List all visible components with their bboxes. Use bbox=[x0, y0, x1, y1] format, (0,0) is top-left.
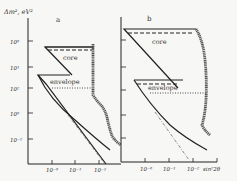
y-tick-label: 10⁶ bbox=[10, 39, 20, 45]
y-tick-label: 10² bbox=[10, 86, 19, 92]
x-tick-label: 10⁻⁴ bbox=[163, 166, 175, 172]
x-tick-label: 10⁻⁶ bbox=[46, 167, 59, 173]
envelope-label: envelope bbox=[50, 78, 80, 86]
x-tick-label: 10⁻² bbox=[94, 167, 106, 173]
panel-b-x-ticks bbox=[145, 158, 217, 162]
core-label: core bbox=[63, 54, 78, 62]
panel-b-label: b bbox=[147, 15, 152, 23]
x-axis-label: sin²2θ bbox=[203, 166, 221, 172]
y-tick-label: 10⁴ bbox=[10, 65, 19, 71]
envelope-label: envelope bbox=[148, 84, 178, 92]
x-tick-label: 10⁻⁶ bbox=[140, 166, 153, 172]
panel-b-y-ticks bbox=[121, 40, 126, 138]
panel-a-label: a bbox=[56, 16, 60, 24]
x-tick-label: 10⁻² bbox=[187, 166, 199, 172]
panel-a-dashdot-line bbox=[68, 115, 105, 164]
panel-b: 10⁻⁶ 10⁻⁴ 10⁻² sin²2θ core envelope bbox=[121, 17, 221, 172]
panel-a: 10⁶ 10⁴ 10² 10⁰ 10⁻² 10⁻⁶ 10⁻⁴ 10⁻² core… bbox=[10, 18, 121, 173]
core-label: core bbox=[152, 38, 167, 46]
y-tick-label: 10⁻² bbox=[10, 137, 22, 143]
panel-a-hatched-boundary bbox=[93, 44, 121, 145]
panel-b-hatched-boundary bbox=[196, 29, 210, 135]
y-tick-label: 10⁰ bbox=[10, 111, 20, 117]
panel-a-envelope-curve bbox=[38, 75, 110, 150]
y-axis-label: Δm², eV² bbox=[3, 8, 33, 16]
panel-a-y-ticks bbox=[28, 41, 33, 139]
x-tick-label: 10⁻⁴ bbox=[69, 167, 81, 173]
panel-a-x-ticks bbox=[52, 160, 99, 164]
figure: Δm², eV² a b 10⁶ 10⁴ 10² 10⁰ 10⁻² 10⁻⁶ 1… bbox=[0, 0, 237, 181]
